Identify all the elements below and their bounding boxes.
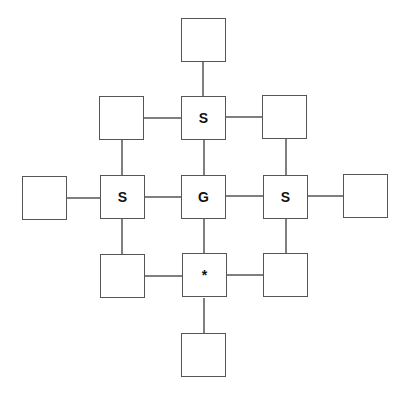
node-top-left [99,96,144,140]
node-top-mid: S [181,96,226,140]
node-top-right [262,95,307,139]
node-center: G [181,175,226,219]
node-bot-right [263,253,308,297]
node-label: S [199,110,208,126]
node-bottom [181,333,226,377]
node-far-left [22,176,67,220]
node-mid-left: S [100,175,145,219]
node-label: S [281,189,290,205]
node-bot-left [100,254,145,298]
node-label: * [202,267,207,283]
node-label: S [118,189,127,205]
node-top [181,18,226,62]
node-far-right [343,174,388,218]
node-mid-right: S [263,175,308,219]
node-label: G [198,189,209,205]
node-bot-mid: * [182,253,227,297]
